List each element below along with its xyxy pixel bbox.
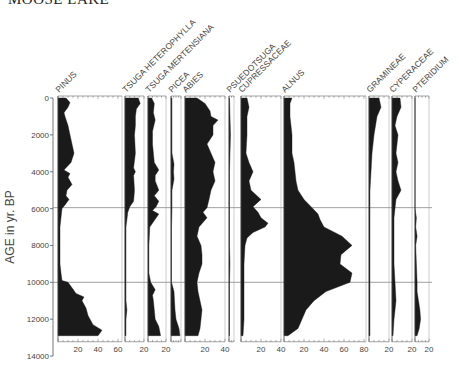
- y-axis: 02000400060008000100001200014000AGE in y…: [3, 94, 53, 361]
- y-tick-label: 4000: [31, 168, 49, 177]
- x-tick-label: 20: [385, 345, 394, 354]
- pollen-curve: [241, 98, 268, 336]
- y-tick-label: 12000: [27, 315, 50, 324]
- x-tick-label: 20: [257, 345, 266, 354]
- x-tick-label: 60: [114, 345, 123, 354]
- x-tick-label: 40: [94, 345, 103, 354]
- y-tick-label: 6000: [31, 205, 49, 214]
- y-tick-label: 14000: [27, 352, 50, 361]
- pollen-curve: [392, 98, 401, 336]
- taxon-column-gramineae: 20GRAMINEAE: [364, 51, 407, 354]
- pollen-curve: [148, 98, 161, 336]
- x-tick-label: 20: [162, 345, 171, 354]
- y-tick-label: 0: [45, 94, 50, 103]
- x-tick-label: 20: [140, 345, 149, 354]
- y-tick-label: 2000: [31, 131, 49, 140]
- x-tick-label: 80: [360, 345, 369, 354]
- y-axis-title: AGE in yr. BP: [3, 190, 17, 263]
- x-tick-label: 40: [221, 345, 230, 354]
- taxon-columns: 204060PINUS20TSUGA HETEROPHYLLA20TSUGA M…: [53, 17, 450, 354]
- pollen-curve: [58, 98, 102, 336]
- taxon-column-pinus: 204060PINUS: [53, 69, 123, 354]
- x-tick-label: 20: [408, 345, 417, 354]
- pollen-curve: [185, 98, 218, 336]
- x-tick-label: 20: [300, 345, 309, 354]
- y-tick-label: 8000: [31, 241, 49, 250]
- x-tick-label: 20: [425, 345, 434, 354]
- pollen-curve: [415, 98, 421, 336]
- taxon-column-alnus: 20406080ALNUS: [279, 67, 369, 354]
- pollen-curve: [171, 98, 180, 336]
- pollen-curve: [125, 98, 140, 336]
- taxon-label: PINUS: [53, 69, 79, 95]
- taxon-column-cyperaceae: 20CYPERACEAE: [387, 46, 435, 354]
- taxon-column-abies: 2040ABIES: [180, 69, 230, 353]
- x-tick-label: 40: [320, 345, 329, 354]
- taxon-column-pteridium: 20PTERIDIUM: [410, 54, 450, 353]
- y-tick-label: 10000: [27, 278, 50, 287]
- x-tick-label: 20: [74, 345, 83, 354]
- pollen-diagram: 02000400060008000100001200014000AGE in y…: [0, 0, 459, 369]
- pollen-curve: [284, 98, 352, 336]
- x-tick-label: 40: [277, 345, 286, 354]
- pollen-curve: [369, 98, 381, 336]
- x-tick-label: 60: [340, 345, 349, 354]
- x-tick-label: 20: [201, 345, 210, 354]
- taxon-label: ALNUS: [279, 67, 306, 94]
